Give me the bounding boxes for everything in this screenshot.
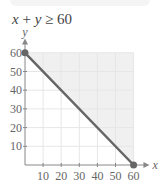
endpoint-dot <box>130 162 137 169</box>
y-tick-label: 60 <box>10 46 22 60</box>
inequality-graph: 102030405060102030405060xy <box>0 0 162 186</box>
x-tick-label: 60 <box>128 169 140 183</box>
y-tick-label: 50 <box>10 65 22 79</box>
x-tick-label: 40 <box>91 169 103 183</box>
x-tick-label: 20 <box>55 169 67 183</box>
y-tick-label: 20 <box>10 121 22 135</box>
y-tick-label: 30 <box>10 102 22 116</box>
y-tick-label: 10 <box>10 139 22 153</box>
x-axis-arrow-icon <box>143 162 149 168</box>
x-axis-label: x <box>151 158 158 172</box>
endpoint-dot <box>22 49 29 56</box>
x-tick-label: 50 <box>110 169 122 183</box>
x-tick-label: 30 <box>73 169 85 183</box>
y-tick-label: 40 <box>10 83 22 97</box>
x-tick-label: 10 <box>37 169 49 183</box>
y-axis-label: y <box>21 25 28 39</box>
